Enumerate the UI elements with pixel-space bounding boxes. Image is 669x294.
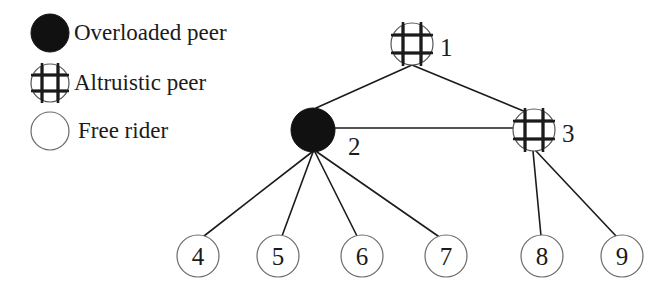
node-2 bbox=[291, 108, 335, 152]
node-5: 5 bbox=[257, 235, 299, 277]
node-2-label: 2 bbox=[348, 133, 361, 160]
legend-label-altruistic: Altruistic peer bbox=[74, 71, 206, 94]
node-4-label: 4 bbox=[192, 243, 205, 270]
legend bbox=[29, 14, 71, 150]
legend-item-overloaded bbox=[31, 14, 69, 52]
node-3-crosshatch-circle-icon bbox=[513, 109, 555, 151]
node-7-label: 7 bbox=[440, 243, 453, 270]
node-8: 8 bbox=[521, 235, 563, 277]
node-6: 6 bbox=[341, 235, 383, 277]
legend-item-free-rider bbox=[31, 112, 69, 150]
legend-label-overloaded: Overloaded peer bbox=[74, 21, 227, 44]
crosshatch-circle-icon bbox=[31, 64, 69, 102]
legend-label-free-rider: Free rider bbox=[78, 119, 168, 142]
node-7: 7 bbox=[425, 235, 467, 277]
node-2-filled-circle-icon bbox=[291, 108, 335, 152]
node-4: 4 bbox=[177, 235, 219, 277]
node-3-label: 3 bbox=[562, 120, 575, 147]
node-8-label: 8 bbox=[536, 243, 549, 270]
node-1-crosshatch-circle-icon bbox=[391, 23, 433, 65]
filled-circle-icon bbox=[31, 14, 69, 52]
empty-circle-icon bbox=[31, 112, 69, 150]
node-9: 9 bbox=[601, 235, 643, 277]
node-9-label: 9 bbox=[616, 243, 629, 270]
node-1-label: 1 bbox=[440, 34, 453, 61]
node-5-label: 5 bbox=[272, 243, 285, 270]
node-6-label: 6 bbox=[356, 243, 369, 270]
